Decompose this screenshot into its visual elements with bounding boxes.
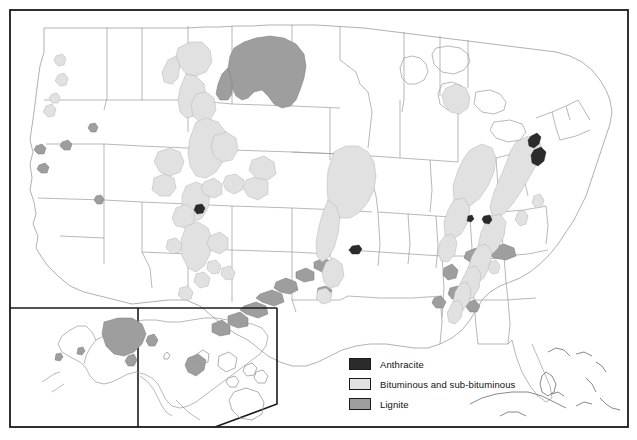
legend-item-lignite: Lignite [349,394,579,414]
legend-item-bituminous: Bituminous and sub-bituminous [349,374,579,394]
legend-label-bituminous: Bituminous and sub-bituminous [380,379,515,390]
anthracite-swatch [349,358,371,370]
legend-label-anthracite: Anthracite [380,359,424,370]
coal-deposits-map: Anthracite Bituminous and sub-bituminous… [0,0,637,440]
legend-label-lignite: Lignite [380,399,409,410]
bituminous-swatch [349,378,371,390]
legend-item-anthracite: Anthracite [349,354,579,374]
map-legend: Anthracite Bituminous and sub-bituminous… [349,354,579,414]
lignite-swatch [349,398,371,410]
